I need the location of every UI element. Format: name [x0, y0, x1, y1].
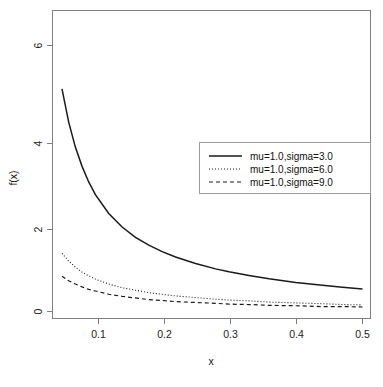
x-axis-ticks: [99, 318, 363, 324]
legend-label-sigma-6: mu=1.0,sigma=6.0: [250, 164, 333, 175]
x-tick-label-0.4: 0.4: [289, 328, 304, 340]
x-axis-tick-labels: 0.1 0.2 0.3 0.4 0.5: [91, 328, 370, 340]
chart-page: 0 2 4 6 f(x) 0.1 0.2 0.3 0.4 0.5 x: [0, 0, 383, 387]
series-curves: [62, 89, 363, 307]
legend: mu=1.0,sigma=3.0 mu=1.0,sigma=6.0 mu=1.0…: [200, 143, 371, 194]
y-axis-title: f(x): [7, 170, 19, 185]
density-plot: 0 2 4 6 f(x) 0.1 0.2 0.3 0.4 0.5 x: [0, 0, 383, 387]
y-tick-label-0: 0: [32, 308, 44, 314]
x-tick-label-0.5: 0.5: [355, 328, 370, 340]
x-axis-title: x: [208, 355, 214, 367]
curve-sigma-6: [62, 253, 363, 305]
x-tick-label-0.1: 0.1: [91, 328, 106, 340]
legend-label-sigma-3: mu=1.0,sigma=3.0: [250, 151, 333, 162]
x-tick-label-0.3: 0.3: [223, 328, 238, 340]
y-axis-ticks: [47, 46, 53, 312]
y-tick-label-2: 2: [32, 226, 44, 232]
legend-label-sigma-9: mu=1.0,sigma=9.0: [250, 177, 333, 188]
y-axis-tick-labels: 0 2 4 6: [32, 42, 44, 314]
y-tick-label-4: 4: [32, 140, 44, 146]
curve-sigma-9: [62, 276, 363, 307]
y-tick-label-6: 6: [32, 42, 44, 48]
x-tick-label-0.2: 0.2: [157, 328, 172, 340]
